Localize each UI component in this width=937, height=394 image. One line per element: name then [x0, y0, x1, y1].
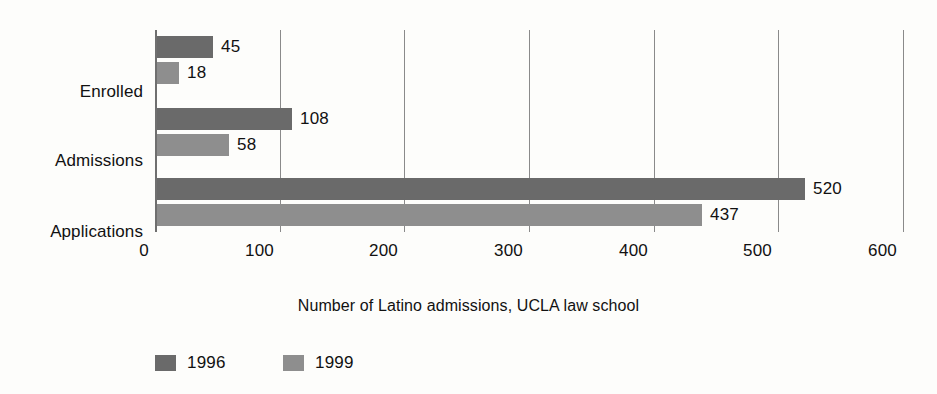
- bar-enrolled-1996[interactable]: [157, 36, 213, 58]
- legend-swatch-1996: [155, 355, 176, 371]
- y-axis-line: [155, 30, 157, 232]
- category-label-admissions: Admissions: [55, 151, 143, 171]
- bar-value-admissions-1999: 58: [237, 134, 256, 156]
- category-label-enrolled: Enrolled: [80, 82, 143, 102]
- legend-item-1999[interactable]: 1999: [283, 352, 354, 374]
- gridline-600: [903, 30, 904, 232]
- bar-value-applications-1996: 520: [813, 178, 842, 200]
- bar-value-admissions-1996: 108: [300, 108, 329, 130]
- xtick-label-100: 100: [230, 240, 274, 262]
- legend-swatch-1999: [283, 355, 304, 371]
- gridline-100: [280, 30, 281, 232]
- bar-enrolled-1999[interactable]: [157, 62, 179, 84]
- category-axis: Enrolled Admissions Applications: [0, 30, 143, 232]
- gridline-200: [404, 30, 405, 232]
- bar-admissions-1996[interactable]: [157, 108, 292, 130]
- bar-admissions-1999[interactable]: [157, 134, 229, 156]
- legend-label-1999: 1999: [315, 352, 354, 374]
- gridline-500: [778, 30, 779, 232]
- bar-value-enrolled-1999: 18: [187, 62, 206, 84]
- legend-item-1996[interactable]: 1996: [155, 352, 226, 374]
- x-axis-title: Number of Latino admissions, UCLA law sc…: [0, 296, 937, 316]
- legend-label-1996: 1996: [187, 352, 226, 374]
- bar-applications-1999[interactable]: [157, 204, 702, 226]
- xtick-label-200: 200: [354, 240, 398, 262]
- bar-applications-1996[interactable]: [157, 178, 805, 200]
- bar-chart: Enrolled Admissions Applications 45 18 1…: [0, 0, 937, 394]
- xtick-label-300: 300: [479, 240, 523, 262]
- gridline-300: [529, 30, 530, 232]
- xtick-label-600: 600: [853, 240, 897, 262]
- plot-area: 45 18 108 58 520 437: [155, 30, 903, 232]
- bar-value-applications-1999: 437: [710, 204, 739, 226]
- xtick-label-500: 500: [728, 240, 772, 262]
- xtick-label-400: 400: [604, 240, 648, 262]
- category-label-applications: Applications: [50, 222, 143, 242]
- xtick-label-0: 0: [105, 240, 149, 262]
- bar-value-enrolled-1996: 45: [221, 36, 240, 58]
- gridline-400: [654, 30, 655, 232]
